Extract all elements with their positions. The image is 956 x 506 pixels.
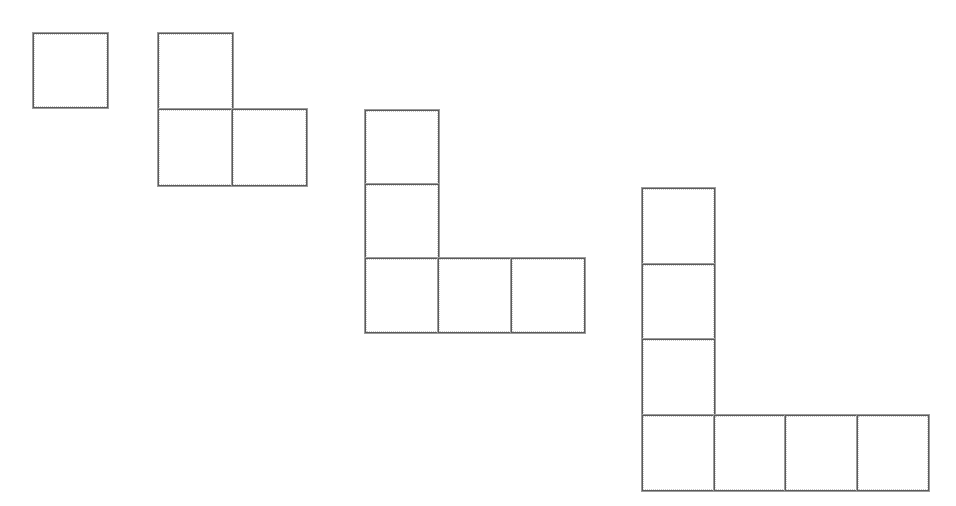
square-tile [232,109,307,186]
square-tile [511,258,585,333]
square-tile [642,188,715,265]
square-tile [365,110,439,185]
square-tile [365,184,439,259]
square-tile [714,415,787,492]
square-tile [438,258,512,333]
square-tile [642,339,715,416]
square-tile [158,33,233,110]
square-tile [158,109,233,186]
pattern-canvas [0,0,956,506]
square-tile [785,415,858,492]
square-tile [642,264,715,341]
square-tile [642,415,715,492]
square-tile [33,33,108,108]
square-tile [857,415,930,492]
square-tile [365,258,439,333]
